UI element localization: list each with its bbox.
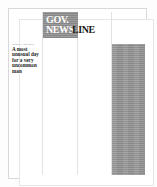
photo-placeholder <box>112 44 145 175</box>
logo-news-text: NEWS <box>46 25 74 35</box>
logo-line-text: LINE <box>72 25 95 35</box>
story-headline: A most unusual day for a very uncommon m… <box>12 47 40 74</box>
newsletter-page: GOV. NEWS LINE SPECIAL REPORT A most unu… <box>0 0 157 187</box>
